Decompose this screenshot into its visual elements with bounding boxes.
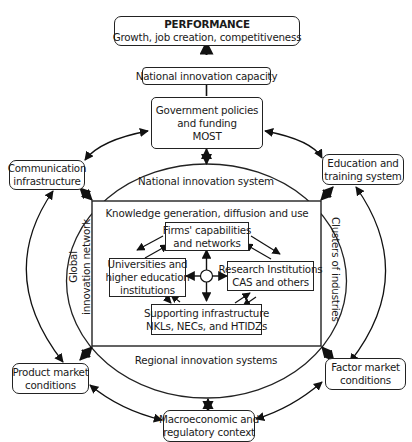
government-policies-box: Government policies and funding MOST <box>151 97 263 149</box>
regional-innovation-systems-label: Regional innovation systems <box>116 354 296 367</box>
supporting-infrastructure-box: Supporting infrastructure NKLs, NECs, an… <box>151 304 262 335</box>
government-line3: MOST <box>192 130 221 143</box>
education-line1: Education and <box>327 157 398 170</box>
research-institutions-box: Research Institutions CAS and others <box>227 261 314 291</box>
education-line2: training system <box>324 170 401 183</box>
government-line2: and funding <box>177 117 237 130</box>
factor-market-line2: conditions <box>340 374 391 387</box>
government-line1: Government policies <box>156 104 258 117</box>
knowledge-generation-title: Knowledge generation, diffusion and use <box>96 207 318 220</box>
firms-line2: and networks <box>173 237 240 250</box>
product-market-line1: Product market <box>12 366 88 379</box>
universities-box: Universities and higher education instit… <box>109 258 186 297</box>
firms-line1: Firms' capabilities <box>163 224 251 237</box>
global-innovation-network-label: Global innovation network <box>67 217 93 317</box>
performance-title: PERFORMANCE <box>164 18 249 31</box>
infrastructure-line2: NKLs, NECs, and HTIDZs <box>146 320 267 333</box>
factor-market-box: Factor market conditions <box>325 358 406 390</box>
global-line1: Global <box>67 217 80 317</box>
communication-line2: infrastructure <box>13 175 80 188</box>
research-line2: CAS and others <box>232 276 309 289</box>
national-innovation-system-label: National innovation system <box>116 175 296 188</box>
performance-subtitle: Growth, job creation, competitiveness <box>113 31 302 44</box>
universities-line3: institutions <box>120 284 175 297</box>
research-line1: Research Institutions <box>219 263 323 276</box>
communication-line1: Communication <box>8 162 87 175</box>
product-market-line2: conditions <box>25 379 76 392</box>
macroeconomic-box: Macroeconomic and regulatory context <box>163 410 255 442</box>
hub-circle <box>201 270 213 282</box>
universities-line1: Universities and <box>108 258 188 271</box>
national-innovation-capacity-box: National innovation capacity <box>142 67 271 85</box>
macroeconomic-line1: Macroeconomic and <box>159 413 259 426</box>
global-line2: innovation network <box>80 217 93 317</box>
performance-box: PERFORMANCE Growth, job creation, compet… <box>114 16 300 46</box>
national-innovation-capacity-label: National innovation capacity <box>136 70 278 83</box>
clusters-of-industries-label: Clusters of industries <box>328 217 342 317</box>
universities-line2: higher education <box>105 271 189 284</box>
factor-market-line1: Factor market <box>331 361 400 374</box>
product-market-box: Product market conditions <box>12 363 89 394</box>
infrastructure-line1: Supporting infrastructure <box>144 307 269 320</box>
firms-capabilities-box: Firms' capabilities and networks <box>165 222 249 251</box>
education-training-box: Education and training system <box>322 154 404 185</box>
macroeconomic-line2: regulatory context <box>163 426 255 439</box>
communication-infrastructure-box: Communication infrastructure <box>9 160 85 190</box>
